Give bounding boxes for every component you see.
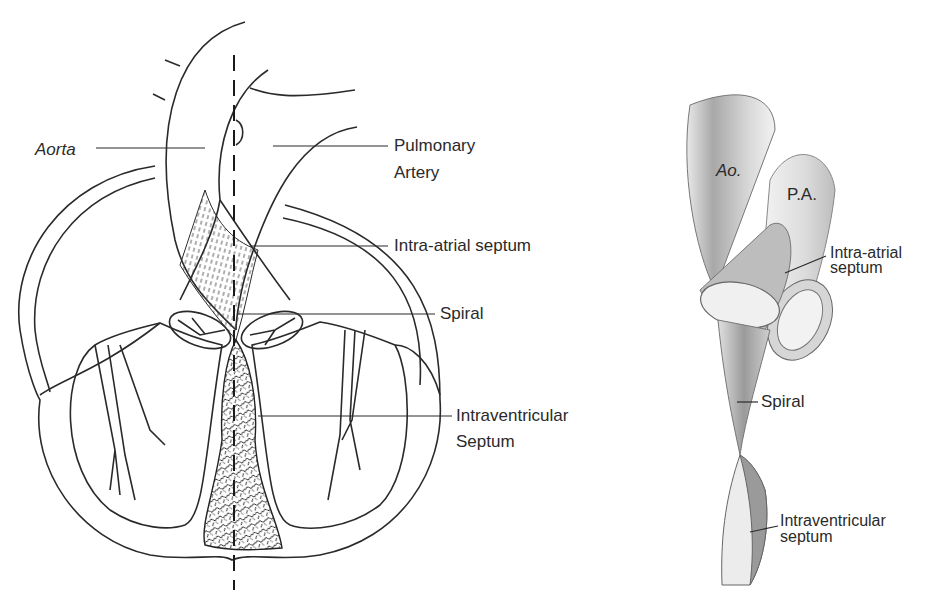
label-intraventricular-right-1: Intraventricular	[780, 513, 886, 528]
spiral-band	[718, 320, 770, 455]
label-intra-atrial-1: Intra-atrial	[830, 245, 902, 260]
label-ao: Ao.	[716, 161, 742, 181]
label-aorta: Aorta	[35, 140, 76, 160]
label-pulmonary: Pulmonary	[394, 136, 475, 156]
label-intra-atrial-septum: Intra-atrial septum	[394, 236, 531, 256]
heart-inner-wall	[35, 178, 155, 392]
label-artery: Artery	[394, 163, 439, 183]
pulmonary-artery-vessel	[236, 127, 357, 330]
intra-atrial-septum-hatch	[180, 190, 258, 340]
label-spiral: Spiral	[440, 304, 483, 324]
label-septum: Septum	[456, 432, 515, 452]
label-intraventricular-right-2: septum	[780, 529, 832, 544]
label-pa: P.A.	[787, 185, 817, 205]
label-intraventricular: Intraventricular	[456, 406, 568, 426]
label-spiral-right: Spiral	[761, 392, 804, 412]
left-leader-lines	[96, 146, 452, 416]
right-ventricle	[252, 322, 407, 528]
left-ventricle	[70, 323, 222, 528]
intraventricular-septum-hatch	[204, 340, 282, 550]
label-intra-atrial-2: septum	[830, 260, 882, 275]
